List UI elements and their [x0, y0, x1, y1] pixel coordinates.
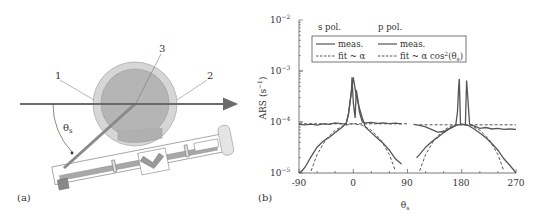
svg-text:fit ~ α cos2(θs): fit ~ α cos2(θs) — [400, 50, 463, 62]
panel-a-label: (a) — [17, 192, 31, 203]
legend: s pol. p pol. meas. fit ~ α meas. fit ~ … — [312, 22, 466, 62]
callout-1: 1 — [55, 70, 61, 81]
svg-text:10−2: 10−2 — [270, 13, 290, 25]
angle-label: θs — [63, 122, 73, 135]
svg-text:-90: -90 — [292, 178, 307, 188]
panel-b-chart: 10−2 10−3 10−4 10−5 -90 0 90 180 270 ARS… — [256, 13, 525, 211]
svg-text:meas.: meas. — [338, 39, 363, 49]
svg-text:90: 90 — [401, 178, 413, 188]
legend-group-s: s pol. — [318, 22, 341, 32]
svg-text:10−3: 10−3 — [270, 64, 290, 76]
y-tick-labels: 10−2 10−3 10−4 10−5 — [270, 13, 290, 178]
svg-text:fit ~ α: fit ~ α — [338, 51, 366, 61]
plot-series — [299, 77, 516, 173]
svg-text:10−4: 10−4 — [270, 115, 290, 127]
x-axis-label: θs — [401, 200, 410, 211]
callout-3: 3 — [159, 43, 165, 54]
svg-text:10−5: 10−5 — [270, 166, 290, 178]
svg-text:meas.: meas. — [400, 39, 425, 49]
svg-text:180: 180 — [452, 178, 469, 188]
series-line-3 — [311, 124, 395, 171]
panel-b-label: (b) — [258, 192, 272, 203]
svg-text:0: 0 — [350, 178, 356, 188]
figure: 1 2 3 θs (a) 10−2 10−3 10−4 10−5 -90 0 9… — [0, 0, 542, 222]
y-axis-label: ARS (s−1) — [256, 77, 268, 121]
legend-group-p: p pol. — [378, 22, 402, 32]
panel-a-diagram: 1 2 3 θs (a) — [17, 43, 236, 203]
svg-text:270: 270 — [507, 178, 524, 188]
x-tick-labels: -90 0 90 180 270 — [292, 178, 525, 188]
callout-2: 2 — [207, 70, 213, 81]
series-line-7 — [420, 124, 504, 171]
series-line-5 — [417, 124, 517, 173]
